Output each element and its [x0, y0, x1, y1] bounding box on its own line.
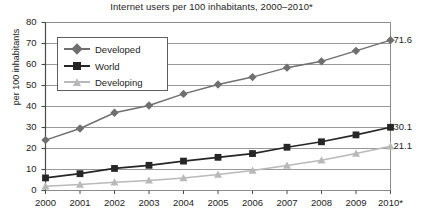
data-point-marker — [145, 101, 153, 109]
series-line — [46, 127, 391, 178]
y-tick-label: 0 — [13, 185, 37, 195]
plot-area — [0, 0, 423, 222]
x-tick-label: 2010* — [366, 197, 416, 208]
y-tick-label: 50 — [13, 80, 37, 90]
data-point-marker — [111, 165, 118, 172]
y-tick-label: 30 — [13, 122, 37, 132]
chart-container: Internet users per 100 inhabitants, 2000… — [0, 0, 423, 222]
legend-item-developed: Developed — [64, 41, 140, 57]
data-point-marker — [179, 90, 187, 98]
y-tick-label: 20 — [13, 143, 37, 153]
series-developing — [42, 142, 395, 189]
chart-title: Internet users per 100 inhabitants, 2000… — [0, 1, 423, 12]
data-point-marker — [215, 154, 222, 161]
data-point-marker — [214, 80, 222, 88]
data-point-marker — [77, 170, 84, 177]
data-point-marker — [353, 131, 360, 138]
data-point-marker — [284, 144, 291, 151]
end-label-developed: 71.6 — [394, 35, 413, 45]
data-point-marker — [42, 175, 49, 182]
end-label-world: 30.1 — [394, 122, 413, 132]
y-tick-label: 60 — [13, 59, 37, 69]
data-point-marker — [249, 150, 256, 157]
legend-marker-diamond-icon — [64, 43, 90, 55]
y-tick-label: 10 — [13, 164, 37, 174]
legend-marker-square-icon — [64, 60, 90, 72]
y-tick-label: 40 — [13, 101, 37, 111]
data-point-marker — [248, 73, 256, 81]
legend-label-developed: Developed — [95, 44, 140, 55]
data-point-marker — [180, 158, 187, 165]
data-point-marker — [352, 47, 360, 55]
end-label-developing: 21.1 — [394, 141, 413, 151]
data-point-marker — [110, 109, 118, 117]
legend-marker-triangle-icon — [64, 76, 90, 88]
y-tick-label: 70 — [13, 38, 37, 48]
legend-item-developing: Developing — [64, 74, 143, 90]
data-point-marker — [318, 138, 325, 145]
series-line — [46, 146, 391, 186]
data-point-marker — [76, 124, 84, 132]
legend-label-developing: Developing — [95, 77, 143, 88]
data-point-marker — [41, 136, 49, 144]
chart-legend: Developed World Developing — [57, 37, 168, 91]
data-point-marker — [146, 162, 153, 169]
y-tick-label: 80 — [13, 17, 37, 27]
legend-label-world: World — [95, 61, 120, 72]
legend-item-world: World — [64, 58, 120, 74]
